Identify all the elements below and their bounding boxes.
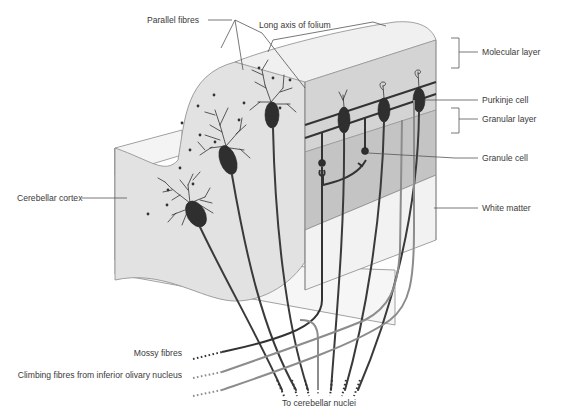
label-climbing-fibres: Climbing fibres from inferior olivary nu… [18,370,182,380]
label-granular-layer: Granular layer [482,114,537,124]
label-cerebellar-cortex: Cerebellar cortex [17,193,83,203]
label-long-axis: Long axis of folium [259,20,331,30]
label-white-matter: White matter [482,203,531,213]
label-mossy-fibres: Mossy fibres [134,348,182,358]
label-molecular-layer: Molecular layer [482,47,540,57]
label-purkinje-cell: Purkinje cell [482,95,528,105]
cerebellar-cortex-diagram: Long axis of folium Parallel fibres Mole… [0,0,565,417]
label-granule-cell: Granule cell [482,153,528,163]
label-parallel-fibres: Parallel fibres [147,15,199,25]
label-cerebellar-nuclei: To cerebellar nuclei [282,398,356,408]
dotted-continuations [193,352,360,396]
